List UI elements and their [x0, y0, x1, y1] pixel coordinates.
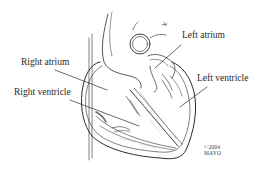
leader-right-ventricle — [70, 100, 139, 126]
label-right-atrium: Right atrium — [21, 58, 69, 68]
copyright-notice: ©2004 MAYO — [204, 145, 221, 157]
label-left-ventricle: Left ventricle — [197, 74, 248, 84]
label-left-atrium: Left atrium — [182, 31, 225, 41]
copyright-owner: MAYO — [204, 151, 221, 157]
label-right-ventricle: Right ventricle — [14, 88, 71, 98]
heart-diagram: Left atrium Right atrium Left ventricle … — [0, 0, 259, 179]
